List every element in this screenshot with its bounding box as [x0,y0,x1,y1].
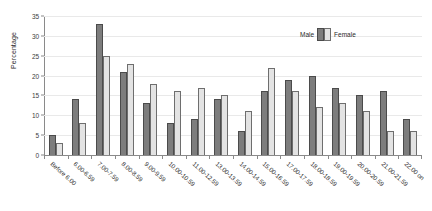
bar-female [363,111,370,155]
bar-chart: Percentage 05101520253035 Before 6.006.0… [0,0,432,211]
x-axis-label-slot: 19.00-19.59 [328,160,352,211]
x-axis-label-slot: 17.00-17.59 [280,160,304,211]
bar-female [268,68,275,155]
bar-group [44,16,68,155]
bar-female [316,107,323,155]
bar-group [68,16,92,155]
x-axis-tick [257,155,281,159]
y-axis-tick-label: 20 [32,72,44,79]
bar-group [398,16,422,155]
bar-male [332,88,339,156]
x-axis-label-slot: Before 6.00 [44,160,68,211]
x-axis-label-slot: 7.00-7.59 [91,160,115,211]
bar-male [143,103,150,155]
bar-group [91,16,115,155]
legend-swatch-female [324,28,331,41]
bar-male [238,131,245,155]
x-axis-label-slot: 18.00-18.59 [304,160,328,211]
bar-female [410,131,417,155]
legend-label-male: Male [300,31,314,38]
bar-female [292,91,299,155]
bar-male [285,80,292,155]
x-axis-label-slot: 15.00-16.59 [257,160,281,211]
y-axis-ticks: 05101520253035 [0,0,44,156]
x-axis-label-slot: 9.00-9.59 [139,160,163,211]
plot-area [44,16,422,155]
legend-swatch-male [317,28,324,41]
x-axis-tick [186,155,210,159]
x-axis-tick [351,155,375,159]
x-axis-labels: Before 6.006.00-6.597.00-7.598.00-8.599.… [44,160,422,211]
x-axis-tick [162,155,186,159]
bar-male [120,72,127,155]
bar-group [233,16,257,155]
chart-legend: Male Female [300,28,356,41]
x-axis-tick [68,155,92,159]
bar-group [186,16,210,155]
x-axis-label-slot: 14.00-14.59 [233,160,257,211]
bar-female [127,64,134,155]
bar-group [209,16,233,155]
x-axis-label-slot: 20.00-20.59 [351,160,375,211]
bar-male [261,91,268,155]
y-axis-tick-label: 30 [32,32,44,39]
bar-groups [44,16,422,155]
x-axis-ticks [44,155,422,159]
bar-male [356,95,363,155]
x-axis-label-slot: 10.00-10.59 [162,160,186,211]
x-axis-label: 22.00 on [404,160,427,181]
x-axis-label-slot: 21.00-21.59 [375,160,399,211]
bar-female [56,143,63,155]
x-axis-tick [328,155,352,159]
bar-female [339,103,346,155]
bar-male [403,119,410,155]
bar-group [257,16,281,155]
x-axis-label-slot: 8.00-8.59 [115,160,139,211]
x-axis-tick [139,155,163,159]
x-axis-tick [115,155,139,159]
y-axis-tick-label: 25 [32,52,44,59]
y-axis-tick-label: 10 [32,112,44,119]
x-axis-tick [375,155,399,159]
bar-male [214,99,221,155]
bar-male [96,24,103,155]
x-axis-tick [44,155,68,159]
bar-female [198,88,205,156]
legend-label-female: Female [334,31,356,38]
x-axis-tick [398,155,422,159]
legend-swatches [317,28,331,41]
bar-group [375,16,399,155]
y-axis-tick-label: 0 [35,152,44,159]
x-axis-tick [233,155,257,159]
bar-female [221,95,228,155]
bar-female [387,131,394,155]
bar-male [191,119,198,155]
bar-group [162,16,186,155]
bar-male [309,76,316,155]
bar-group [139,16,163,155]
x-axis-label-slot: 13.00-13.59 [209,160,233,211]
bar-female [103,56,110,155]
bar-female [245,111,252,155]
bar-group [115,16,139,155]
bar-female [150,84,157,155]
bar-female [79,123,86,155]
bar-male [49,135,56,155]
x-axis-tick [304,155,328,159]
x-axis-tick [91,155,115,159]
x-axis-label-slot: 6.00-6.59 [68,160,92,211]
y-axis-tick-label: 5 [35,132,44,139]
bar-male [380,91,387,155]
x-axis-label-slot: 22.00 on [398,160,422,211]
x-axis-label-slot: 11.00-12.59 [186,160,210,211]
y-axis-tick-label: 15 [32,92,44,99]
x-axis-tick [209,155,233,159]
y-axis-tick-label: 35 [32,13,44,20]
bar-male [72,99,79,155]
x-axis-tick [280,155,304,159]
bar-female [174,91,181,155]
bar-male [167,123,174,155]
